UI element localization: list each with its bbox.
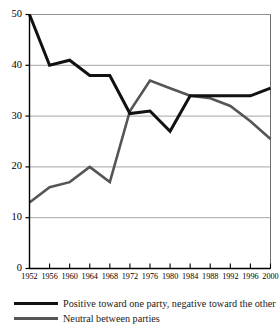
gridlines [30,15,271,218]
chart-legend: Positive toward one party, negative towa… [14,296,276,326]
legend-label-positive: Positive toward one party, negative towa… [63,298,276,309]
series-line [30,15,271,132]
legend-swatch-neutral [14,317,58,320]
legend-swatch-positive [14,302,58,305]
x-axis-tick-label: 2000 [257,272,280,281]
y-axis-tick-label: 30 [0,111,22,122]
y-axis-tick-label: 50 [0,9,22,20]
chart-container: 01020304050 1952195619601964196819721976… [0,0,279,330]
y-axis-tick-label: 20 [0,161,22,172]
y-axis-tick-label: 40 [0,60,22,71]
plot-area-border [30,15,271,269]
series-line [30,81,271,203]
series-lines [30,15,271,203]
y-axis-tick-label: 10 [0,212,22,223]
legend-label-neutral: Neutral between parties [63,313,160,324]
x-axis-ticks [30,264,271,269]
legend-item-neutral: Neutral between parties [14,311,276,326]
plot-frame [30,15,271,269]
legend-item-positive: Positive toward one party, negative towa… [14,296,276,311]
